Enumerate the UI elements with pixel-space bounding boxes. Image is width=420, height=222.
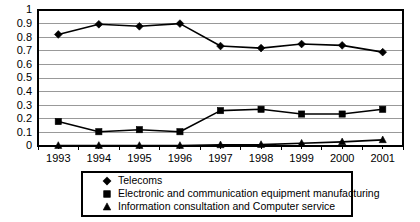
line-chart-figure: 10.90.80.70.60.50.40.30.20.10 1993199419…: [0, 0, 420, 222]
x-tick-label: 2000: [330, 152, 354, 164]
y-tick-label: 0.5: [17, 71, 32, 83]
legend-label: Information consultation and Computer se…: [118, 200, 335, 212]
gridlines: [38, 10, 403, 146]
legend-label: Telecoms: [118, 174, 162, 186]
data-series: [54, 20, 386, 149]
data-point-marker: [298, 40, 306, 48]
x-tick-label: 1993: [46, 152, 70, 164]
y-tick-label: 0.2: [17, 112, 32, 124]
legend-marker-square: [104, 191, 111, 198]
data-point-marker: [217, 42, 225, 50]
y-tick-label: 0.7: [17, 44, 32, 56]
y-tick-label: 1: [26, 3, 32, 15]
y-tick-label: 0: [26, 139, 32, 151]
y-tick-label: 0.1: [17, 126, 32, 138]
y-tick-label: 0.8: [17, 31, 32, 43]
series-square: [55, 106, 386, 135]
x-tick-label: 1997: [208, 152, 232, 164]
data-point-marker: [258, 106, 264, 112]
data-point-marker: [55, 118, 61, 124]
y-tick-label: 0.9: [17, 17, 32, 29]
data-point-marker: [379, 48, 387, 56]
x-tick-label: 1996: [168, 152, 192, 164]
y-axis-tick-labels: 10.90.80.70.60.50.40.30.20.10: [17, 3, 32, 151]
data-point-marker: [217, 108, 223, 114]
x-tick-label: 1999: [289, 152, 313, 164]
chart-canvas: 10.90.80.70.60.50.40.30.20.10 1993199419…: [0, 0, 420, 222]
y-tick-label: 0.3: [17, 99, 32, 111]
data-point-marker: [136, 127, 142, 133]
data-point-marker: [176, 20, 184, 28]
y-tick-label: 0.4: [17, 85, 32, 97]
chart-legend: TelecomsElectronic and communication equ…: [82, 172, 380, 216]
x-tick-label: 1995: [127, 152, 151, 164]
x-tick-label: 2001: [370, 152, 394, 164]
data-point-marker: [177, 129, 183, 135]
data-point-marker: [96, 129, 102, 135]
data-point-marker: [299, 111, 305, 117]
x-axis-tick-labels: 199319941995199619971998199920002001: [46, 152, 395, 164]
data-point-marker: [339, 111, 345, 117]
x-tick-label: 1998: [249, 152, 273, 164]
data-point-marker: [380, 106, 386, 112]
x-tick-label: 1994: [87, 152, 111, 164]
data-point-marker: [338, 41, 346, 49]
y-tick-label: 0.6: [17, 58, 32, 70]
legend-label: Electronic and communication equipment m…: [118, 187, 380, 199]
data-point-marker: [95, 20, 103, 28]
